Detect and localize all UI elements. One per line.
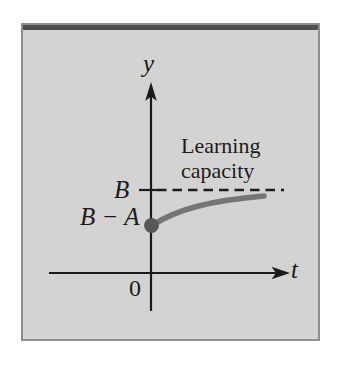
figure-page: y t 0 B B − A Learning capacity xyxy=(0,0,340,366)
annotation-line-1: Learning xyxy=(181,133,260,158)
start-point-dot xyxy=(144,218,159,233)
initial-value-label: B − A xyxy=(80,203,139,231)
learning-capacity-annotation: Learning capacity xyxy=(181,133,260,183)
learning-curve xyxy=(152,196,264,226)
origin-label: 0 xyxy=(129,275,141,302)
y-axis-label: y xyxy=(143,50,154,78)
learning-curve-plot xyxy=(0,0,340,366)
t-axis-label: t xyxy=(291,256,298,284)
annotation-line-2: capacity xyxy=(181,158,260,183)
asymptote-b-label: B xyxy=(114,176,129,204)
